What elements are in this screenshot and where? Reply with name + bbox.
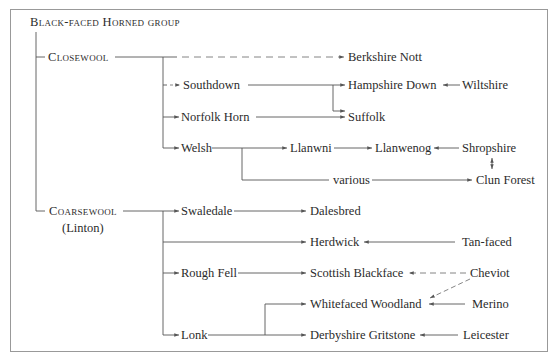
- node-lonk: Lonk: [181, 328, 208, 342]
- node-tan-faced: Tan-faced: [462, 235, 513, 249]
- node-southdown: Southdown: [183, 78, 241, 92]
- node-various: various: [333, 173, 370, 187]
- edge-cheviot-whitefacedwoodland: [430, 279, 470, 298]
- trunk-line: [36, 32, 45, 211]
- node-leicester: Leicester: [463, 328, 510, 342]
- node-berkshire-nott: Berkshire Nott: [348, 50, 422, 64]
- node-suffolk: Suffolk: [348, 110, 386, 124]
- edge-southdown-suffolk: [333, 85, 345, 111]
- edge-lonk-whitefacedwoodland: [265, 304, 306, 335]
- node-rough-fell: Rough Fell: [181, 266, 237, 280]
- node-llanwenog: Llanwenog: [375, 141, 432, 155]
- node-dalesbred: Dalesbred: [310, 204, 361, 218]
- node-welsh: Welsh: [181, 141, 213, 155]
- node-wiltshire: Wiltshire: [462, 78, 508, 92]
- node-norfolk-horn: Norfolk Horn: [181, 110, 250, 124]
- node-merino: Merino: [472, 297, 509, 311]
- group-coarsewool-subtitle: (Linton): [62, 221, 104, 235]
- group-closewool: Closewool: [48, 50, 109, 64]
- node-swaledale: Swaledale: [181, 204, 233, 218]
- node-scottish-blackface: Scottish Blackface: [310, 266, 404, 280]
- node-clun-forest: Clun Forest: [476, 173, 535, 187]
- node-shropshire: Shropshire: [462, 141, 517, 155]
- diagram-title: Black-faced Horned group: [30, 15, 180, 29]
- breed-lineage-diagram: Black-faced Horned group Closewool Berks…: [0, 0, 556, 364]
- node-herdwick: Herdwick: [310, 235, 360, 249]
- node-whitefaced-woodland: Whitefaced Woodland: [310, 297, 422, 311]
- node-cheviot: Cheviot: [470, 266, 510, 280]
- node-llanwni: Llanwni: [290, 141, 332, 155]
- node-derbyshire-gritstone: Derbyshire Gritstone: [310, 328, 416, 342]
- group-coarsewool: Coarsewool: [49, 204, 117, 218]
- node-hampshire-down: Hampshire Down: [348, 78, 437, 92]
